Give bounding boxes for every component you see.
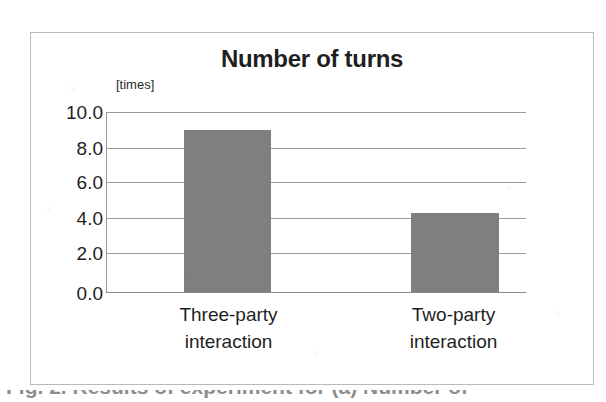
gridline-6 [106, 182, 526, 183]
x-axis-line [106, 292, 526, 293]
y-tick-label: 0.0 [31, 284, 103, 303]
y-tick-label: 10.0 [31, 103, 103, 122]
x-label-line2: interaction [146, 328, 311, 355]
gridline-10 [106, 112, 526, 113]
x-axis-category-labels: Three-party interaction Two-party intera… [106, 301, 526, 371]
bar-three-party[interactable] [184, 130, 271, 293]
y-axis-tick-labels: 10.0 8.0 6.0 4.0 2.0 0.0 [31, 33, 103, 293]
y-tick-label: 6.0 [31, 173, 103, 192]
plot-area [106, 112, 526, 293]
x-label-line1: Three-party [179, 304, 277, 325]
chart-figure-frame: Number of turns [times] 10.0 8.0 6.0 4.0… [30, 32, 594, 385]
y-tick-label: 8.0 [31, 139, 103, 158]
x-label-line1: Two-party [412, 304, 495, 325]
bar-two-party[interactable] [411, 213, 499, 293]
x-label-line2: interaction [371, 328, 536, 355]
y-axis-unit-label: [times] [116, 77, 154, 92]
y-tick-label: 2.0 [31, 244, 103, 263]
gridline-8 [106, 148, 526, 149]
x-label-three-party: Three-party interaction [146, 301, 311, 355]
figure-caption-sliver: Fig. 2. Results of experiment for (a) Nu… [0, 390, 606, 402]
y-tick-label: 4.0 [31, 209, 103, 228]
y-axis-line [106, 112, 107, 293]
chart-title: Number of turns [31, 45, 593, 73]
x-label-two-party: Two-party interaction [371, 301, 536, 355]
figure-caption-text: Fig. 2. Results of experiment for (a) Nu… [6, 390, 468, 399]
